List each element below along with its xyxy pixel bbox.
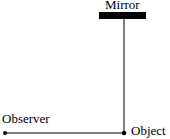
object-point (122, 131, 127, 136)
mirror-label: Mirror (105, 0, 140, 11)
observer-label: Observer (2, 112, 50, 125)
mirror-bar (99, 12, 146, 19)
object-label: Object (131, 124, 166, 137)
observer-point (3, 131, 7, 135)
